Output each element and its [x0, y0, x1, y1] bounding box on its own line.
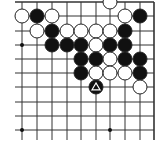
white-stone — [30, 24, 44, 38]
white-stone — [89, 24, 103, 38]
black-stone — [74, 66, 88, 80]
black-stone — [133, 52, 147, 66]
black-stone — [89, 80, 103, 94]
star-point — [20, 43, 24, 47]
black-stone — [133, 9, 147, 23]
white-stone — [103, 24, 117, 38]
black-stone — [30, 9, 44, 23]
go-board — [0, 0, 156, 150]
black-stone — [118, 24, 132, 38]
white-stone — [103, 52, 117, 66]
white-stone — [15, 9, 29, 23]
black-stone — [74, 38, 88, 52]
white-stone — [103, 66, 117, 80]
black-stone — [118, 38, 132, 52]
black-stone — [89, 52, 103, 66]
black-stone — [45, 24, 59, 38]
star-point — [108, 128, 112, 132]
white-stone — [89, 66, 103, 80]
black-stone — [45, 38, 59, 52]
white-stone — [89, 38, 103, 52]
white-stone — [74, 24, 88, 38]
black-stone — [118, 52, 132, 66]
black-stone — [74, 52, 88, 66]
go-board-diagram — [0, 0, 156, 150]
black-stone — [103, 38, 117, 52]
white-stone — [45, 9, 59, 23]
white-stone — [103, 0, 117, 9]
white-stone — [133, 80, 147, 94]
white-stone — [118, 9, 132, 23]
white-stone — [60, 24, 74, 38]
black-stone — [60, 38, 74, 52]
white-stone — [118, 66, 132, 80]
star-point — [20, 128, 24, 132]
black-stone — [133, 66, 147, 80]
